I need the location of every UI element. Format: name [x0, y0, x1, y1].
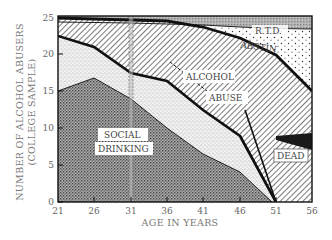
- x-tick-label: 21: [52, 206, 63, 216]
- label-rtd: R.T.D.: [255, 26, 282, 36]
- age-31-marker: [129, 16, 133, 202]
- label-drinking: DRINKING: [98, 144, 149, 154]
- x-tick-label: 41: [197, 206, 208, 216]
- y-tick-label: 5: [48, 160, 54, 170]
- label-abuse: ABUSE: [208, 93, 242, 103]
- label-social: SOCIAL: [104, 130, 140, 140]
- x-tick-label: 51: [270, 206, 281, 216]
- x-tick-label: 56: [306, 206, 318, 216]
- y-tick-label: 10: [43, 123, 55, 133]
- x-axis-title: AGE IN YEARS: [141, 217, 219, 228]
- y-tick-label: 20: [43, 49, 55, 59]
- y-tick-label: 15: [43, 86, 55, 96]
- label-dead: DEAD: [277, 151, 305, 161]
- y-axis-title-line1: NUMBER OF ALCOHOL ABUSERS: [14, 23, 25, 201]
- x-tick-label: 46: [234, 206, 246, 216]
- x-tick-label: 31: [125, 206, 136, 216]
- y-axis-title-line2: (COLLEGE SAMPLE): [26, 58, 37, 165]
- x-tick-label: 36: [161, 206, 173, 216]
- y-tick-label: 25: [43, 13, 55, 23]
- label-alcohol: ALCOHOL: [185, 72, 234, 82]
- x-tick-label: 26: [88, 206, 100, 216]
- alcohol-abuse-chart: R.T.D. ABSTIN ALCOHOL ABUSE DEAD SOCIAL …: [0, 0, 332, 240]
